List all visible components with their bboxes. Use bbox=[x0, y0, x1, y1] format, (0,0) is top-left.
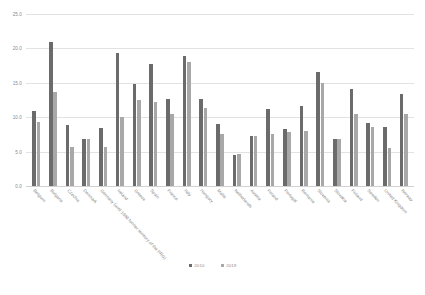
x-axis-labels: BelgiumBulgariaCzechiaDenmarkGermany (un… bbox=[26, 188, 414, 258]
bar-group bbox=[78, 14, 95, 186]
gridline bbox=[26, 186, 414, 187]
bar-2010 bbox=[316, 72, 320, 186]
bar-2010 bbox=[166, 99, 170, 186]
bar-group bbox=[279, 14, 296, 186]
y-axis-tick-label: 15.0 bbox=[13, 80, 22, 85]
x-axis-label-slot: United Kingdom bbox=[379, 188, 396, 258]
x-axis-label-slot: Poland bbox=[262, 188, 279, 258]
x-axis-label-slot: Norway bbox=[395, 188, 412, 258]
bar-group bbox=[379, 14, 396, 186]
x-axis-label-slot: Denmark bbox=[78, 188, 95, 258]
legend-item[interactable]: 2010 bbox=[189, 263, 205, 268]
bar-2019 bbox=[254, 136, 258, 186]
bar-group bbox=[61, 14, 78, 186]
bar-2010 bbox=[233, 155, 237, 186]
bar-2010 bbox=[300, 106, 304, 186]
bar-2019 bbox=[404, 114, 408, 186]
bar-2019 bbox=[120, 117, 124, 186]
bar-2019 bbox=[271, 134, 275, 186]
x-axis-label-slot: Belgium bbox=[28, 188, 45, 258]
x-axis-label-slot: Finland bbox=[345, 188, 362, 258]
bar-2010 bbox=[133, 84, 137, 187]
x-axis-tick-label: Italy bbox=[183, 188, 192, 197]
bar-2019 bbox=[187, 62, 191, 186]
x-axis-tick-label: Norway bbox=[400, 188, 414, 202]
bar-2010 bbox=[199, 99, 203, 186]
bar-2019 bbox=[354, 114, 358, 186]
x-axis-tick-label: Ireland bbox=[116, 188, 129, 201]
bar-group bbox=[295, 14, 312, 186]
bar-2010 bbox=[82, 139, 86, 186]
plot-area bbox=[26, 14, 414, 186]
legend-swatch-icon bbox=[189, 264, 192, 267]
bar-group bbox=[245, 14, 262, 186]
x-axis-label-slot: Italy bbox=[178, 188, 195, 258]
bar-2019 bbox=[287, 132, 291, 186]
bar-group bbox=[162, 14, 179, 186]
bar-2019 bbox=[388, 148, 392, 186]
bar-2010 bbox=[383, 127, 387, 186]
bar-2010 bbox=[116, 53, 120, 186]
bar-group bbox=[228, 14, 245, 186]
x-axis-label-slot: Austria bbox=[245, 188, 262, 258]
bar-group bbox=[178, 14, 195, 186]
bar-2019 bbox=[87, 139, 91, 186]
bar-2019 bbox=[321, 83, 325, 186]
x-axis-label-slot: Hungary bbox=[195, 188, 212, 258]
bar-2010 bbox=[99, 128, 103, 186]
bar-2010 bbox=[149, 64, 153, 186]
bar-2019 bbox=[237, 154, 241, 186]
x-axis-label-slot: Ireland bbox=[112, 188, 129, 258]
y-axis-tick-label: 0.0 bbox=[15, 184, 22, 189]
bar-2010 bbox=[400, 94, 404, 186]
x-axis-label-slot: Portugal bbox=[279, 188, 296, 258]
x-axis-label-slot: Spain bbox=[145, 188, 162, 258]
bar-2019 bbox=[104, 147, 108, 186]
bar-2019 bbox=[37, 122, 41, 186]
bar-2010 bbox=[216, 124, 220, 186]
bar-group bbox=[312, 14, 329, 186]
bar-2010 bbox=[266, 109, 270, 186]
bar-2010 bbox=[350, 89, 354, 186]
legend-item[interactable]: 2019 bbox=[221, 263, 237, 268]
bar-2010 bbox=[32, 111, 36, 186]
bar-group bbox=[145, 14, 162, 186]
legend-label: 2010 bbox=[194, 263, 204, 268]
bar-2019 bbox=[220, 134, 224, 186]
y-axis-tick-label: 5.0 bbox=[15, 149, 22, 154]
bar-2010 bbox=[250, 136, 254, 186]
bar-group bbox=[362, 14, 379, 186]
bar-group bbox=[45, 14, 62, 186]
bar-group bbox=[212, 14, 229, 186]
x-axis-tick-label: Malta bbox=[216, 188, 227, 199]
bar-2010 bbox=[183, 56, 187, 186]
y-axis-tick-label: 10.0 bbox=[13, 115, 22, 120]
bar-2019 bbox=[371, 127, 375, 186]
bar-group bbox=[262, 14, 279, 186]
bar-2019 bbox=[154, 102, 158, 186]
bar-series-container bbox=[26, 14, 414, 186]
bar-group bbox=[195, 14, 212, 186]
x-axis-label-slot: Malta bbox=[212, 188, 229, 258]
bar-2019 bbox=[337, 139, 341, 186]
legend-swatch-icon bbox=[221, 264, 224, 267]
bar-2010 bbox=[49, 42, 53, 186]
x-axis-tick-label: Spain bbox=[150, 188, 161, 200]
x-axis-label-slot: Bulgaria bbox=[45, 188, 62, 258]
bar-group bbox=[329, 14, 346, 186]
x-axis-label-slot: Netherlands bbox=[228, 188, 245, 258]
bar-2019 bbox=[137, 100, 141, 186]
y-axis-tick-label: 25.0 bbox=[13, 12, 22, 17]
bar-2019 bbox=[170, 114, 174, 186]
bar-chart: 0.05.010.015.020.025.0 BelgiumBulgariaCz… bbox=[0, 0, 425, 295]
bar-group bbox=[95, 14, 112, 186]
y-axis: 0.05.010.015.020.025.0 bbox=[0, 14, 24, 186]
x-axis-label-slot: Greece bbox=[128, 188, 145, 258]
bar-group bbox=[112, 14, 129, 186]
x-axis-label-slot: Slovakia bbox=[329, 188, 346, 258]
bar-2019 bbox=[204, 108, 208, 186]
bar-2010 bbox=[283, 129, 287, 186]
bar-2010 bbox=[333, 139, 337, 186]
x-axis-label-slot: Germany (until 1990 former territory of … bbox=[95, 188, 112, 258]
bar-2010 bbox=[66, 125, 70, 186]
